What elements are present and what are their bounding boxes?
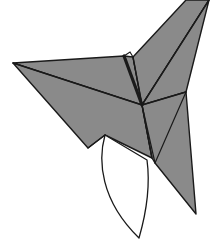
origami-figure — [0, 0, 211, 241]
figure-canvas — [0, 0, 211, 241]
